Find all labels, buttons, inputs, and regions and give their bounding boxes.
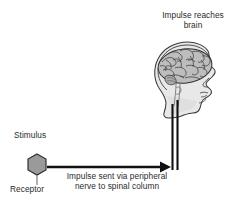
- receptor-icon: [28, 154, 46, 185]
- label-impulse-peripheral-line1: Impulse sent via peripheral: [67, 171, 168, 181]
- nerve-impulse-diagram: Impulse reachesbrain Stimulus Receptor I…: [0, 0, 243, 207]
- label-impulse-reaches-brain: Impulse reachesbrain: [150, 11, 236, 31]
- label-impulse-sent-via-peripheral-nerve: Impulse sent via peripheralnerve to spin…: [58, 172, 176, 192]
- label-stimulus: Stimulus: [14, 131, 46, 141]
- label-receptor: Receptor: [10, 185, 44, 195]
- label-impulse-reaches-brain-line2: brain: [184, 20, 203, 30]
- label-impulse-peripheral-line2: nerve to spinal column: [75, 181, 159, 191]
- label-impulse-reaches-brain-line1: Impulse reaches: [162, 10, 224, 20]
